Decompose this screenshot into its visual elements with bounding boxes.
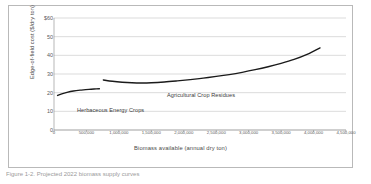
chart-plot-area: Edge-of-field cost ($/dry ton) $60504030… bbox=[9, 6, 352, 167]
x-tick-label: 2,500,000 bbox=[207, 130, 226, 135]
figure-caption: Figure 1-2. Projected 2022 biomass suppl… bbox=[6, 171, 365, 177]
x-tick-label: 3,000,000 bbox=[239, 130, 258, 135]
x-tick-label: 4,000,000 bbox=[304, 130, 323, 135]
x-axis-tick-labels: 0500,0001,000,0001,500,0002,000,0002,500… bbox=[9, 6, 352, 167]
series-label-herbaceous-energy-crops: Herbaceous Energy Crops bbox=[77, 107, 144, 113]
x-tick-label: 0 bbox=[53, 130, 55, 135]
x-tick-label: 4,500,000 bbox=[336, 130, 355, 135]
x-tick-label: 1,000,000 bbox=[109, 130, 128, 135]
figure-container: Edge-of-field cost ($/dry ton) $60504030… bbox=[8, 5, 353, 168]
x-axis-title: Biomass available (annual dry ton) bbox=[9, 145, 352, 151]
x-tick-label: 500,000 bbox=[79, 130, 95, 135]
x-tick-label: 3,500,000 bbox=[272, 130, 291, 135]
x-tick-label: 1,500,000 bbox=[142, 130, 161, 135]
series-label-agricultural-crop-residues: Agricultural Crop Residues bbox=[167, 92, 235, 98]
x-tick-label: 2,000,000 bbox=[174, 130, 193, 135]
